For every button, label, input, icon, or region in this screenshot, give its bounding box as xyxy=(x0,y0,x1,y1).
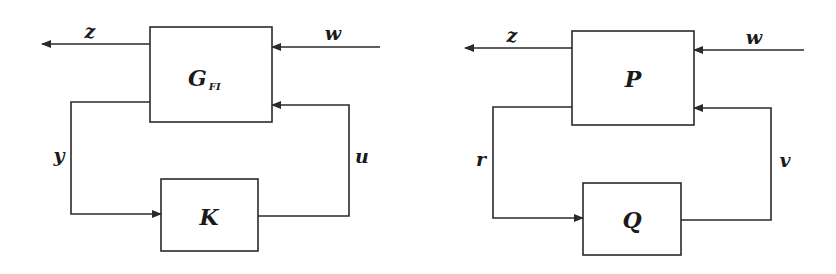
diagram-right: P Q z w r v xyxy=(465,24,804,255)
controller-label: K xyxy=(198,204,219,230)
u-label: u xyxy=(355,145,369,167)
r-label: r xyxy=(476,148,488,170)
controller-label: Q xyxy=(622,207,641,233)
z-label: z xyxy=(84,20,97,42)
v-label: v xyxy=(779,149,791,171)
plant-block-gfi xyxy=(150,27,272,122)
plant-label: P xyxy=(624,66,643,92)
z-label: z xyxy=(506,24,519,46)
w-label: w xyxy=(325,22,342,44)
r-path xyxy=(493,107,583,218)
y-label: y xyxy=(52,144,66,166)
w-label: w xyxy=(746,26,763,48)
diagram-left: GFI K z w y u xyxy=(42,20,380,251)
y-path xyxy=(71,102,161,214)
